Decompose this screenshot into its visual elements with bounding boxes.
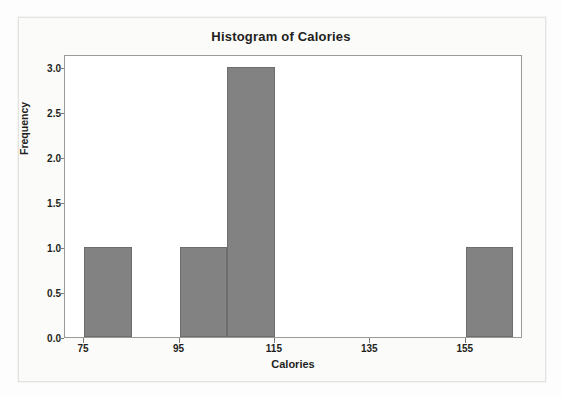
x-tick-label: 75 — [63, 343, 103, 354]
x-tick-mark — [83, 338, 84, 343]
histogram-bar — [466, 247, 514, 337]
bars-container — [65, 56, 521, 337]
y-tick-mark — [59, 248, 64, 249]
y-tick-mark — [59, 113, 64, 114]
x-tick-label: 135 — [349, 343, 389, 354]
y-tick-label: 3.0 — [31, 63, 61, 74]
y-tick-mark — [59, 293, 64, 294]
plot-area — [64, 55, 522, 338]
histogram-figure: Histogram of Calories Frequency 0.00.51.… — [0, 0, 562, 396]
y-tick-label: 0.5 — [31, 288, 61, 299]
y-tick-label: 0.0 — [31, 333, 61, 344]
y-tick-label: 1.5 — [31, 198, 61, 209]
x-tick-label: 115 — [254, 343, 294, 354]
y-tick-label: 1.0 — [31, 243, 61, 254]
y-tick-label: 2.5 — [31, 108, 61, 119]
x-axis-label: Calories — [64, 358, 522, 370]
y-tick-mark — [59, 68, 64, 69]
x-tick-mark — [274, 338, 275, 343]
chart-title: Histogram of Calories — [0, 29, 562, 44]
y-tick-label: 2.0 — [31, 153, 61, 164]
x-tick-mark — [465, 338, 466, 343]
x-tick-mark — [179, 338, 180, 343]
x-tick-label: 95 — [159, 343, 199, 354]
x-tick-label: 155 — [445, 343, 485, 354]
histogram-bar — [180, 247, 228, 337]
y-axis-ticks: 0.00.51.01.52.02.53.0 — [28, 0, 61, 396]
histogram-bar — [227, 67, 275, 337]
y-tick-mark — [59, 338, 64, 339]
y-tick-mark — [59, 203, 64, 204]
histogram-bar — [84, 247, 132, 337]
y-tick-mark — [59, 158, 64, 159]
x-tick-mark — [369, 338, 370, 343]
